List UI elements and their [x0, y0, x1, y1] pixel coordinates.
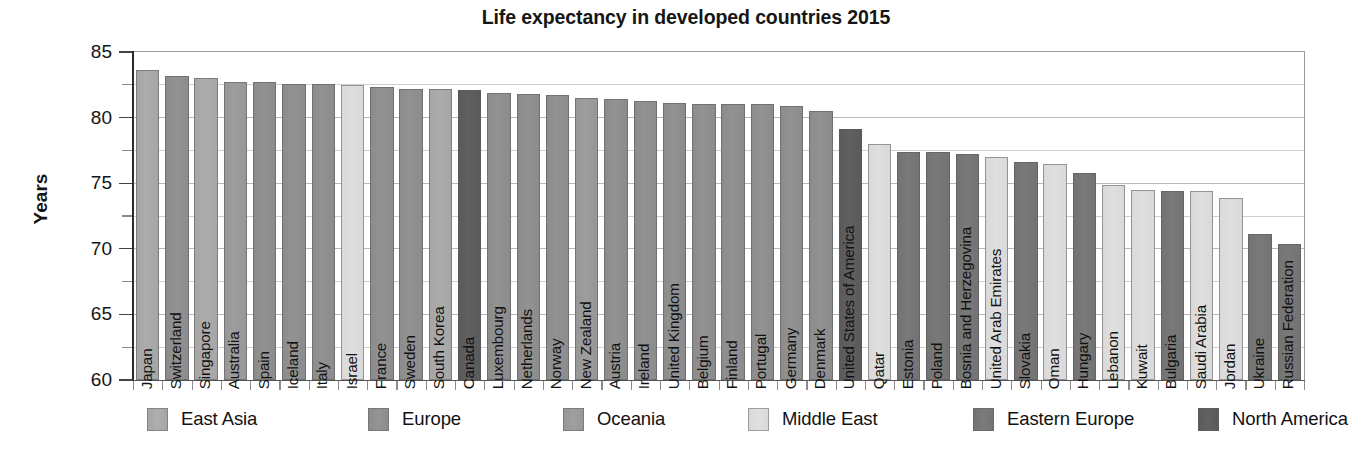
bar-category-label: Switzerland	[168, 312, 183, 389]
bar[interactable]	[370, 87, 393, 380]
x-tick-mark	[1070, 381, 1071, 390]
bar-category-label: United States of America	[841, 226, 856, 390]
x-tick-mark	[1011, 381, 1012, 390]
bar-category-label: Qatar	[870, 352, 885, 389]
x-tick-mark	[631, 381, 632, 390]
y-tick-label: 80	[66, 108, 112, 127]
x-tick-mark	[982, 381, 983, 390]
y-tick-label: 70	[66, 239, 112, 258]
bar-category-label: Norway	[548, 339, 563, 390]
x-tick-mark	[1216, 381, 1217, 390]
y-tick-label: 60	[66, 370, 112, 389]
bar-category-label: Denmark	[812, 329, 827, 390]
bar[interactable]	[634, 101, 657, 380]
x-tick-mark	[923, 381, 924, 390]
bar-category-label: Italy	[314, 362, 329, 389]
legend-label: Europe	[402, 408, 461, 430]
bar-category-label: Bulgaria	[1163, 335, 1178, 390]
y-axis-title: Years	[30, 164, 52, 234]
bar-category-label: Australia	[226, 331, 241, 389]
bar-category-label: Lebanon	[1105, 331, 1120, 389]
bar-category-label: Hungary	[1075, 333, 1090, 389]
x-tick-mark	[133, 381, 134, 390]
bar-category-label: United Arab Emirates	[987, 249, 1002, 390]
bar[interactable]	[253, 82, 276, 380]
x-tick-mark	[484, 381, 485, 390]
bar[interactable]	[721, 104, 744, 380]
bar-category-label: Russian Federation	[1280, 260, 1295, 389]
bar-category-label: Belgium	[695, 335, 710, 389]
bar-category-label: Ukraine	[1251, 338, 1266, 389]
bar[interactable]	[604, 99, 627, 380]
legend-item[interactable]: Oceania	[563, 404, 665, 434]
bar-category-label: Luxembourg	[490, 306, 505, 389]
x-tick-mark	[1158, 381, 1159, 390]
legend-swatch	[748, 408, 769, 431]
x-tick-mark	[953, 381, 954, 390]
legend-swatch	[973, 408, 994, 431]
bar-category-label: New Zealand	[578, 301, 593, 389]
bar-category-label: Singapore	[197, 321, 212, 389]
bar[interactable]	[341, 85, 364, 380]
plot-area: JapanSwitzerlandSingaporeAustraliaSpainI…	[133, 52, 1305, 380]
legend-label: Middle East	[782, 408, 878, 430]
x-tick-mark	[865, 381, 866, 390]
x-tick-mark	[1275, 381, 1276, 390]
bar-category-label: Netherlands	[519, 309, 534, 389]
bar-category-label: Ireland	[636, 344, 651, 389]
x-tick-mark	[1099, 381, 1100, 390]
x-tick-mark	[1304, 381, 1305, 390]
legend-swatch	[368, 408, 389, 431]
x-tick-mark	[836, 381, 837, 390]
y-tick-label: 75	[66, 173, 112, 192]
x-tick-mark	[162, 381, 163, 390]
legend-item[interactable]: Eastern Europe	[973, 404, 1134, 434]
bar-category-label: Estonia	[900, 340, 915, 390]
legend-item[interactable]: Europe	[368, 404, 461, 434]
x-tick-mark	[279, 381, 280, 390]
x-tick-mark	[543, 381, 544, 390]
x-tick-mark	[367, 381, 368, 390]
legend-item[interactable]: North America	[1198, 404, 1348, 434]
bar-category-label: Oman	[1046, 348, 1061, 389]
x-tick-mark	[660, 381, 661, 390]
legend-item[interactable]: Middle East	[748, 404, 878, 434]
bar-category-label: France	[373, 343, 388, 389]
x-tick-mark	[426, 381, 427, 390]
bar-category-label: Poland	[929, 343, 944, 389]
y-tick-mark	[119, 117, 133, 118]
bar-category-label: Canada	[460, 337, 475, 389]
chart-title: Life expectancy in developed countries 2…	[0, 6, 1372, 29]
bar[interactable]	[868, 144, 891, 380]
x-tick-mark	[777, 381, 778, 390]
bar-category-label: Kuwait	[1134, 345, 1149, 390]
chart-container: Life expectancy in developed countries 2…	[0, 0, 1372, 468]
bar-category-label: Saudi Arabia	[1192, 305, 1207, 389]
x-tick-mark	[1128, 381, 1129, 390]
bar-category-label: United Kingdom	[665, 283, 680, 389]
y-tick-mark	[119, 379, 133, 380]
bar-category-label: Slovakia	[1017, 333, 1032, 389]
x-tick-mark	[1041, 381, 1042, 390]
x-tick-mark	[748, 381, 749, 390]
bar-category-label: South Korea	[431, 306, 446, 389]
bar[interactable]	[312, 84, 335, 381]
bar-category-label: Sweden	[402, 335, 417, 389]
bar[interactable]	[282, 84, 305, 381]
legend-label: North America	[1232, 408, 1348, 430]
x-tick-mark	[396, 381, 397, 390]
legend-label: Oceania	[597, 408, 665, 430]
legend-item[interactable]: East Asia	[147, 404, 257, 434]
x-tick-mark	[1187, 381, 1188, 390]
x-tick-mark	[601, 381, 602, 390]
y-tick-mark	[119, 183, 133, 184]
bar-category-label: Finland	[724, 340, 739, 389]
x-tick-mark	[689, 381, 690, 390]
bar[interactable]	[136, 70, 159, 380]
bar-category-label: Iceland	[285, 341, 300, 389]
legend-swatch	[1198, 408, 1219, 431]
bar-category-label: Austria	[607, 343, 622, 389]
x-tick-mark	[806, 381, 807, 390]
y-tick-mark	[119, 248, 133, 249]
y-tick-label: 85	[66, 42, 112, 61]
